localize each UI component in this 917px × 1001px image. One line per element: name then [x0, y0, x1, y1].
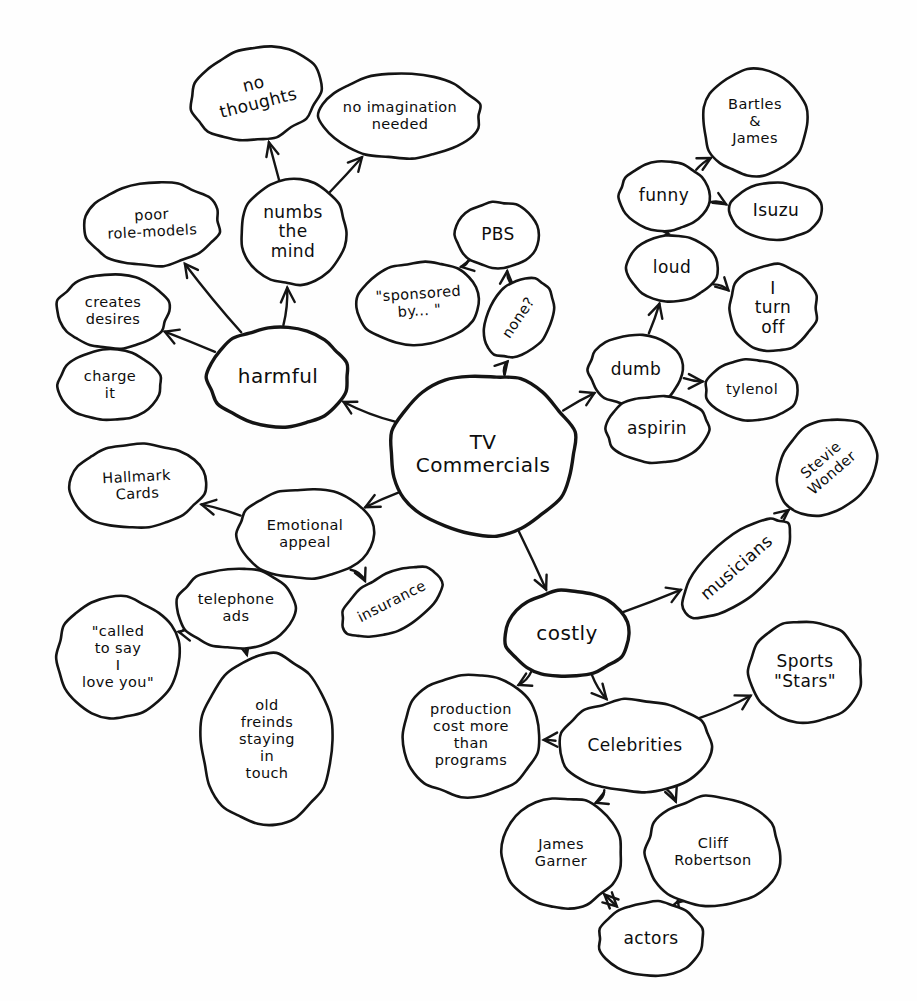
node-actors[interactable]: actors [599, 901, 703, 976]
edge-harmful-to-creates_desires [165, 330, 215, 352]
edge-dumb-to-tylenol [684, 374, 703, 389]
node-label: off [761, 317, 785, 337]
node-pbs[interactable]: PBS [454, 202, 538, 269]
concept-map-canvas: TVCommercialsharmfulnumbsthemindnothough… [0, 0, 917, 1001]
edge-tv_commercials-to-emotional_appeal [365, 493, 398, 508]
edge-numbs_the_mind-to-no_thoughts [266, 142, 279, 180]
node-sports_stars[interactable]: Sports"Stars" [748, 622, 861, 723]
node-label: aspirin [627, 418, 687, 438]
node-label: costly [536, 621, 597, 645]
node-musicians[interactable]: musicians [666, 501, 808, 636]
node-telephone_ads[interactable]: telephoneads [176, 569, 295, 649]
node-label: programs [435, 752, 508, 768]
edge-funny-to-bartles_james [696, 158, 711, 170]
node-label: & [749, 113, 761, 129]
edge-line [330, 157, 362, 192]
node-label: actors [623, 928, 678, 948]
node-creates_desires[interactable]: createsdesires [56, 274, 169, 349]
node-label: by... " [397, 301, 442, 320]
node-label: dumb [611, 359, 662, 379]
node-label: cost more [433, 718, 509, 734]
node-isuzu[interactable]: Isuzu [729, 182, 822, 240]
node-label: the [278, 221, 307, 241]
node-label: freinds [241, 714, 293, 730]
node-label: Celebrities [587, 735, 682, 755]
node-label: PBS [481, 224, 515, 244]
node-label: telephone [198, 591, 275, 607]
edge-costly-to-musicians [623, 588, 681, 613]
edge-celebrities-to-production_cost [544, 733, 558, 747]
edge-celebrities-to-sports_stars [700, 695, 751, 717]
node-label: ads [223, 608, 250, 624]
edge-tv_commercials-to-costly [519, 532, 547, 590]
node-label: Emotional [267, 517, 343, 533]
node-costly[interactable]: costly [505, 590, 629, 676]
node-sponsored_by[interactable]: "sponsoredby... " [354, 258, 482, 349]
node-poor_role_models[interactable]: poorrole-models [82, 179, 222, 270]
edge-harmful-to-poor_role_models [185, 264, 241, 332]
node-label: James [537, 836, 584, 852]
edge-tv_commercials-to-none_q [495, 362, 508, 375]
node-harmful[interactable]: harmful [206, 327, 348, 427]
node-charge_it[interactable]: chargeit [57, 349, 161, 420]
node-label: to say [95, 640, 142, 656]
edge-dumb-to-loud [649, 304, 663, 334]
node-tv_commercials[interactable]: TVCommercials [391, 376, 576, 536]
node-label: old [255, 697, 278, 713]
node-layer: TVCommercialsharmfulnumbsthemindnothough… [56, 33, 896, 976]
node-hallmark_cards[interactable]: HallmarkCards [67, 440, 208, 531]
node-none_q[interactable]: none? [469, 266, 569, 373]
node-called_to_say[interactable]: "calledto sayIlove you" [56, 596, 180, 719]
node-stevie_wonder[interactable]: StevieWonder [756, 397, 896, 535]
node-label: needed [372, 116, 429, 132]
node-label: Commercials [416, 453, 550, 477]
edge-line [519, 532, 546, 590]
node-label: Isuzu [753, 200, 799, 220]
node-label: Cliff [698, 835, 729, 851]
node-label: it [105, 385, 116, 401]
node-label: touch [246, 765, 289, 781]
node-loud[interactable]: loud [626, 235, 718, 301]
node-label: Garner [535, 853, 587, 869]
node-aspirin[interactable]: aspirin [605, 396, 709, 463]
node-label: love you" [82, 674, 154, 690]
node-label: I [116, 657, 121, 673]
node-label: harmful [238, 364, 318, 388]
node-tylenol[interactable]: tylenol [706, 359, 798, 420]
node-old_friends[interactable]: oldfreindsstayingintouch [200, 653, 332, 826]
node-no_thoughts[interactable]: nothoughts [180, 33, 332, 156]
node-label: staying [239, 731, 295, 747]
edge-harmful-to-numbs_the_mind [281, 288, 295, 325]
edge-celebrities-to-james_garner [596, 790, 609, 804]
node-no_imagination_needed[interactable]: no imaginationneeded [318, 73, 481, 158]
node-label: in [260, 748, 274, 764]
node-label: I [770, 278, 775, 298]
edge-costly-to-celebrities [592, 675, 607, 699]
node-label: loud [653, 257, 691, 277]
edge-emotional_appeal-to-insurance [351, 568, 366, 581]
node-label: than [454, 735, 489, 751]
node-emotional_appeal[interactable]: Emotionalappeal [236, 489, 374, 578]
node-i_turn_off[interactable]: Iturnoff [729, 264, 817, 351]
node-james_garner[interactable]: JamesGarner [501, 798, 621, 908]
node-label: poor [134, 206, 169, 224]
edge-funny-to-isuzu [710, 193, 726, 204]
node-label: funny [639, 185, 689, 205]
node-label: tylenol [726, 381, 778, 397]
node-numbs_the_mind[interactable]: numbsthemind [242, 179, 347, 285]
node-bartles_james[interactable]: Bartles&James [703, 68, 807, 176]
edge-numbs_the_mind-to-no_imagination_needed [330, 157, 362, 192]
node-cliff_robertson[interactable]: CliffRobertson [644, 795, 780, 906]
edge-line [185, 264, 241, 332]
node-funny[interactable]: funny [618, 161, 710, 231]
node-label: Cards [115, 484, 159, 502]
node-celebrities[interactable]: Celebrities [560, 699, 712, 793]
node-production_cost[interactable]: productioncost morethanprograms [403, 675, 540, 798]
edge-tv_commercials-to-harmful [344, 402, 396, 422]
node-label: no imagination [343, 99, 457, 115]
edge-emotional_appeal-to-hallmark_cards [202, 500, 241, 516]
node-label: "Stars" [774, 671, 836, 691]
arrowhead-icon [713, 193, 727, 204]
node-label: desires [86, 311, 141, 327]
edge-james_garner-to-actors [602, 892, 618, 908]
